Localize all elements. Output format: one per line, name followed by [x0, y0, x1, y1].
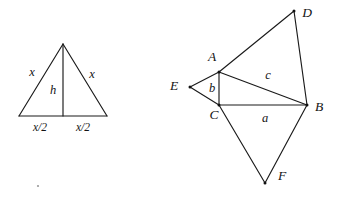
right-diagram-point-labels: DAEBCF [169, 5, 323, 183]
right-leg-label: x [88, 67, 95, 81]
point-label-F: F [277, 168, 287, 183]
base-right-half-label: x/2 [75, 121, 90, 133]
altitude-label: h [50, 83, 56, 97]
edge-C-F [219, 105, 265, 183]
left-leg-line [19, 44, 63, 116]
edge-A-D [219, 11, 294, 72]
stray-speck [37, 185, 39, 187]
vertex-dot-B [306, 104, 309, 107]
vertex-dot-C [218, 104, 221, 107]
edge-D-B [294, 11, 307, 105]
left-diagram-isosceles-triangle: x x h x/2 x/2 [19, 44, 107, 133]
side-label-c: c [265, 68, 271, 82]
point-label-B: B [315, 99, 323, 114]
point-label-E: E [169, 78, 179, 93]
right-diagram-composite-triangles: DAEBCF cba [169, 5, 323, 184]
point-label-A: A [207, 49, 217, 64]
right-diagram-edges [190, 11, 307, 183]
vertex-dot-F [264, 182, 267, 185]
vertex-dot-A [218, 71, 221, 74]
vertex-dot-E [189, 86, 192, 89]
right-leg-line [63, 44, 107, 116]
base-left-half-label: x/2 [32, 121, 47, 133]
side-label-a: a [262, 111, 268, 125]
geometry-figure-canvas: x x h x/2 x/2 DAEBCF cba [0, 0, 340, 199]
vertex-dot-D [293, 10, 296, 13]
point-label-D: D [301, 5, 312, 20]
side-label-b: b [209, 81, 215, 95]
point-label-C: C [209, 107, 219, 122]
figure-root: x x h x/2 x/2 DAEBCF cba [0, 0, 340, 199]
edge-A-B [219, 72, 307, 105]
left-leg-label: x [28, 65, 35, 79]
